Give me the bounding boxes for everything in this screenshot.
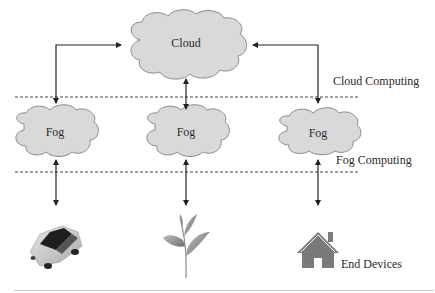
fog-computing-layer-label: Fog Computing — [336, 154, 412, 166]
bottom-rule — [14, 290, 434, 291]
cloud-node-label: Cloud — [166, 37, 206, 49]
end-devices-layer-label: End Devices — [341, 258, 402, 270]
house-icon — [297, 232, 339, 268]
fog-node-label: Fog — [40, 126, 70, 138]
right-cloud-connector — [253, 45, 318, 103]
fog-node-label: Fog — [303, 127, 333, 139]
car-icon — [30, 226, 82, 269]
diagram-canvas — [0, 0, 435, 293]
left-cloud-connector — [56, 45, 121, 103]
plant-icon — [163, 214, 210, 278]
cloud-computing-layer-label: Cloud Computing — [333, 75, 419, 87]
fog-node-label: Fog — [171, 126, 201, 138]
fog-computing-diagram: Cloud Fog Fog Fog Cloud Computing Fog Co… — [0, 0, 435, 293]
fog-edge-connectors — [56, 160, 318, 205]
